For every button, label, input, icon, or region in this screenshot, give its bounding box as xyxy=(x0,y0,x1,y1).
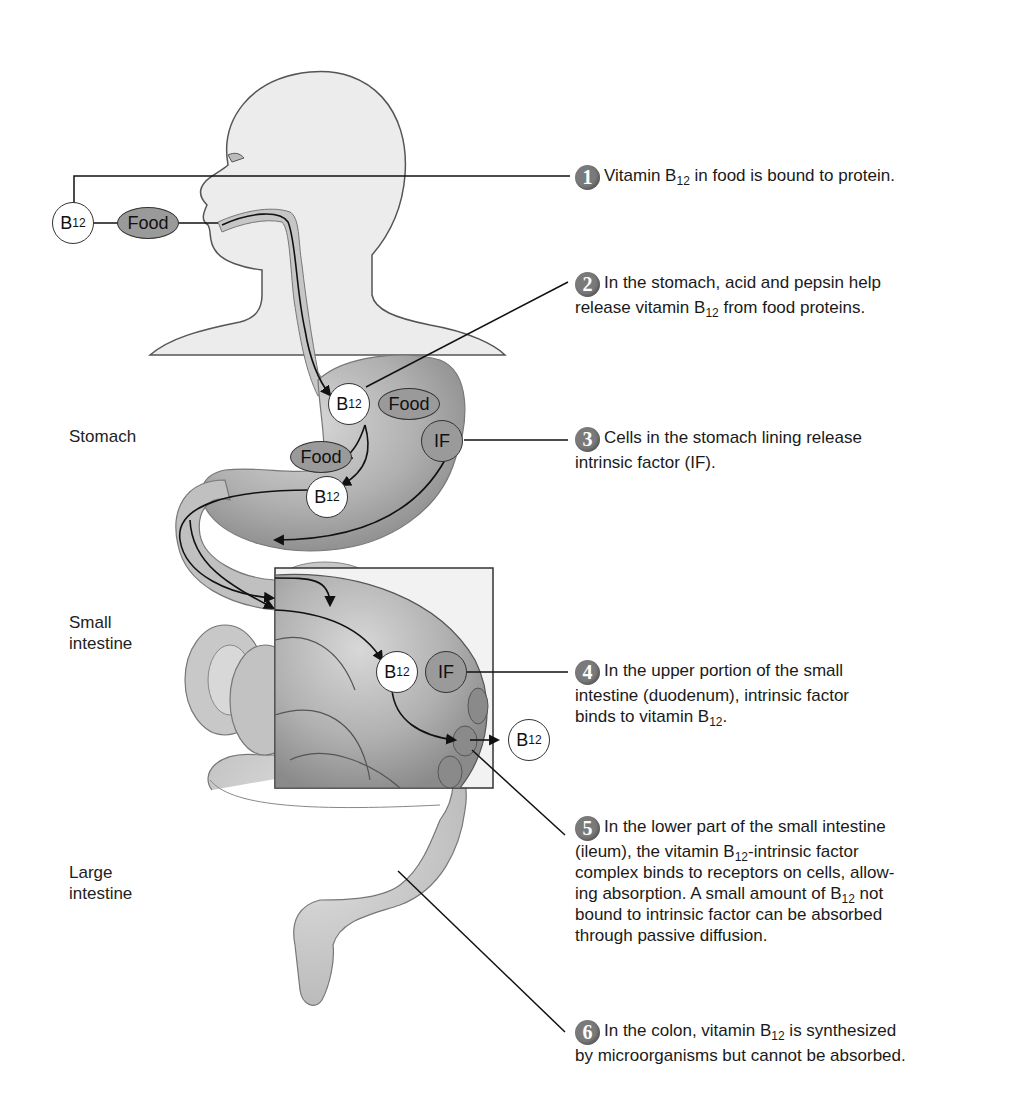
step-number-badge: 2 xyxy=(575,272,600,297)
receptor-cell xyxy=(438,756,462,788)
step-5: 5In the lower part of the small intestin… xyxy=(575,816,894,946)
step-number-badge: 1 xyxy=(575,165,600,190)
food-node-mouth: Food xyxy=(117,207,179,239)
b12-node-stomach-released: B12 xyxy=(306,476,348,518)
step-3: 3Cells in the stomach lining release int… xyxy=(575,427,862,473)
step-4: 4In the upper portion of the small intes… xyxy=(575,660,849,727)
if-node-duodenum: IF xyxy=(425,651,467,693)
step-number-badge: 6 xyxy=(575,1020,600,1045)
step-number-badge: 3 xyxy=(575,427,600,452)
head-silhouette xyxy=(150,71,505,396)
label-small-intestine: Small intestine xyxy=(69,612,132,654)
b12-node-food: B12 xyxy=(52,202,94,244)
b12-node-absorbed: B12 xyxy=(508,719,550,761)
food-node-stomach-top: Food xyxy=(378,388,440,420)
receptor-cell xyxy=(468,688,488,724)
label-large-intestine: Large intestine xyxy=(69,862,132,904)
label-stomach: Stomach xyxy=(69,426,136,447)
step-2: 2In the stomach, acid and pepsin help re… xyxy=(575,272,881,318)
if-node-stomach: IF xyxy=(421,420,463,462)
b12-node-stomach-top: B12 xyxy=(328,383,370,425)
step-1: 1Vitamin B12 in food is bound to protein… xyxy=(575,165,895,190)
step-number-badge: 5 xyxy=(575,816,600,841)
step-6: 6In the colon, vitamin B12 is synthesize… xyxy=(575,1020,906,1066)
food-node-stomach-released: Food xyxy=(290,441,352,473)
b12-node-duodenum: B12 xyxy=(376,651,418,693)
step-number-badge: 4 xyxy=(575,660,600,685)
